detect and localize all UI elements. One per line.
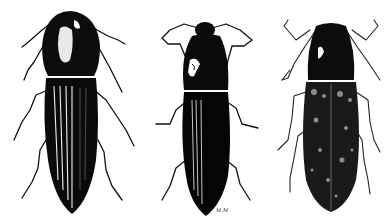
beetle-left: [0, 0, 140, 224]
beetle-illustration-plate: M.M.: [0, 0, 392, 224]
beetle-middle: [140, 0, 270, 224]
artist-signature: M.M.: [216, 207, 230, 213]
beetle-right: [270, 0, 392, 224]
